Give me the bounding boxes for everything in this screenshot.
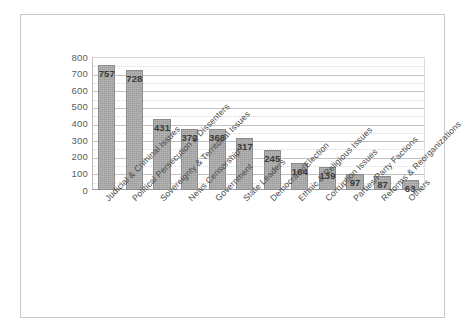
bar-chart: 8007006005004003002001000 75772843137236… (0, 0, 468, 332)
bar (98, 65, 115, 190)
bar-value-label: 728 (117, 74, 151, 84)
y-tick-label: 700 (44, 69, 88, 78)
y-tick-label: 500 (44, 102, 88, 111)
x-axis-labels: Judicial & Criminal IssuesPolitical Pers… (0, 190, 468, 320)
y-axis-labels: 8007006005004003002001000 (40, 57, 88, 190)
screenshot-root: 8007006005004003002001000 75772843137236… (0, 0, 468, 332)
y-tick-label: 400 (44, 119, 88, 128)
y-tick-label: 800 (44, 53, 88, 62)
y-tick-label: 600 (44, 86, 88, 95)
y-tick-label: 100 (44, 169, 88, 178)
y-tick-label: 300 (44, 136, 88, 145)
y-tick-label: 200 (44, 152, 88, 161)
